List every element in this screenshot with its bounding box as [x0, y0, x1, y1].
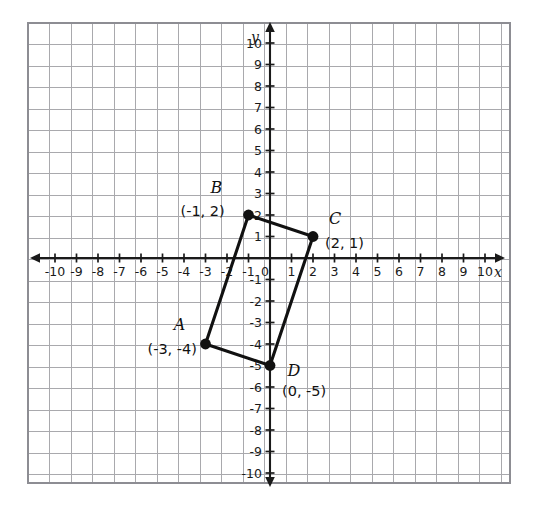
x-tick-label: 3: [331, 264, 339, 279]
coordinate-plane-svg: -10-9-8-7-6-5-4-3-2-10123456789101098765…: [0, 0, 534, 507]
y-axis-name-label: y: [250, 29, 260, 45]
y-tick-label: -6: [250, 380, 263, 395]
y-tick-label: -4: [250, 337, 263, 352]
x-tick-label: 8: [438, 264, 446, 279]
x-tick-label: -8: [92, 264, 105, 279]
coordinate-plane-figure: -10-9-8-7-6-5-4-3-2-10123456789101098765…: [0, 0, 534, 507]
x-tick-label: 7: [417, 264, 425, 279]
y-tick-label: -9: [250, 444, 263, 459]
x-tick-label: 1: [288, 264, 296, 279]
vertex-point-d: [265, 360, 276, 371]
x-axis-arrow-right: [495, 253, 505, 263]
y-tick-label: 1: [254, 229, 262, 244]
x-tick-label: -4: [178, 264, 191, 279]
y-tick-label: 7: [254, 100, 262, 115]
vertex-coord-a: (-3, -4): [148, 341, 197, 357]
vertex-coord-d: (0, -5): [282, 383, 326, 399]
vertex-point-c: [308, 231, 319, 242]
y-tick-label: -10: [242, 466, 262, 481]
x-tick-label: 0: [261, 264, 269, 279]
y-axis-arrow-bottom: [265, 477, 275, 487]
y-tick-label: 5: [254, 143, 262, 158]
y-tick-label: 6: [254, 122, 262, 137]
vertex-name-c: C: [329, 209, 341, 228]
y-tick-label: -3: [250, 315, 262, 330]
x-tick-label: -10: [45, 264, 65, 279]
y-tick-label: 3: [254, 186, 262, 201]
vertex-point-a: [200, 339, 211, 350]
x-tick-label: 10: [477, 264, 493, 279]
vertex-coord-c: (2, 1): [325, 235, 364, 251]
x-tick-label: -5: [156, 264, 168, 279]
y-tick-label: 4: [254, 165, 262, 180]
x-tick-label: 6: [395, 264, 403, 279]
vertex-name-d: D: [287, 361, 301, 380]
vertex-name-b: B: [210, 178, 223, 197]
x-tick-label: 2: [309, 264, 317, 279]
y-tick-label: 8: [254, 79, 262, 94]
x-axis-arrow-left: [30, 253, 40, 263]
x-axis-name-label: x: [494, 264, 502, 280]
y-tick-label: 9: [254, 57, 262, 72]
x-tick-label: 9: [460, 264, 468, 279]
vertex-name-a: A: [172, 315, 186, 334]
y-tick-label: -8: [250, 423, 263, 438]
y-tick-label: -2: [250, 294, 262, 309]
axis-names-layer: xy: [250, 29, 502, 280]
axes-layer: [30, 22, 505, 487]
x-tick-label: -9: [70, 264, 83, 279]
x-tick-label: 5: [374, 264, 382, 279]
x-tick-label: 4: [352, 264, 360, 279]
vertex-coord-b: (-1, 2): [181, 203, 225, 219]
y-tick-label: -7: [250, 401, 262, 416]
x-tick-label: -6: [135, 264, 148, 279]
vertex-point-b: [243, 210, 254, 221]
x-tick-label: -7: [113, 264, 125, 279]
x-tick-label: -3: [199, 264, 211, 279]
y-tick-label: -1: [250, 272, 262, 287]
